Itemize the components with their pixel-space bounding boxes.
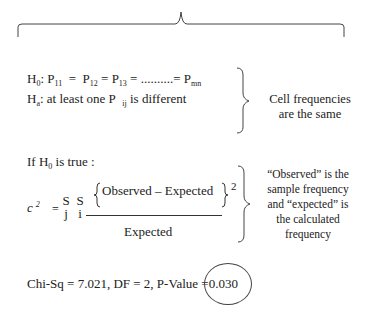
note-line: the calculated — [252, 212, 364, 227]
sigma-index: j — [60, 207, 72, 220]
is-true-text: is true : — [56, 154, 95, 169]
h0-symbol: H — [27, 71, 36, 86]
p13: P — [112, 71, 119, 86]
chi-square-symbol: c2 — [27, 200, 40, 216]
sum-over-i: S i — [74, 194, 86, 220]
ha-text: : at least one P — [40, 91, 116, 106]
top-brace — [0, 0, 392, 40]
ha-text-end: is different — [130, 91, 186, 106]
alternative-hypothesis: Ha: at least one P ij is different — [27, 91, 186, 108]
chi-letter: c — [27, 200, 33, 215]
note-line: sample frequency — [252, 182, 364, 197]
h0-subscript: 0 — [48, 162, 52, 171]
p12: P — [83, 71, 90, 86]
note-line: and “expected” is — [252, 197, 364, 212]
denominator: Expected — [124, 224, 172, 240]
hypotheses-brace — [234, 67, 254, 137]
pmn-sub: mn — [191, 79, 201, 88]
p12-sub: 12 — [90, 79, 98, 88]
ha-symbol: H — [27, 91, 36, 106]
p11: P — [47, 71, 54, 86]
note-line: Cell frequencies — [255, 92, 365, 107]
null-hypothesis: H0: P11 = P12 = P13 = ..........= Pmn — [27, 71, 201, 88]
ellipsis: = ..........= — [130, 71, 180, 86]
pij-sub: ij — [122, 99, 126, 108]
numerator-right-brace — [220, 182, 230, 208]
equals: = — [101, 71, 108, 86]
colon: : — [40, 71, 44, 86]
note-line: frequency — [252, 227, 364, 242]
p-value-highlight-circle — [204, 263, 252, 305]
sigma-index: i — [74, 207, 86, 220]
fraction-bar — [86, 215, 222, 216]
sum-over-j: S j — [60, 194, 72, 220]
chi-power: 2 — [36, 200, 40, 209]
if-text: If H — [27, 154, 48, 169]
pmn: P — [184, 71, 191, 86]
cell-frequencies-note: Cell frequencies are the same — [255, 92, 365, 122]
result-text: Chi-Sq = 7.021, DF = 2, P-Value = — [27, 276, 209, 291]
p11-sub: 11 — [55, 79, 63, 88]
note-line: are the same — [255, 107, 365, 122]
equals: = — [69, 71, 76, 86]
p13-sub: 13 — [119, 79, 127, 88]
numerator: Observed – Expected — [102, 183, 213, 199]
if-h0-true-label: If H0 is true : — [27, 154, 95, 171]
observed-expected-note: “Observed” is the sample frequency and “… — [252, 167, 364, 242]
note-line: “Observed” is the — [252, 167, 364, 182]
formula-equals: = — [52, 202, 59, 217]
